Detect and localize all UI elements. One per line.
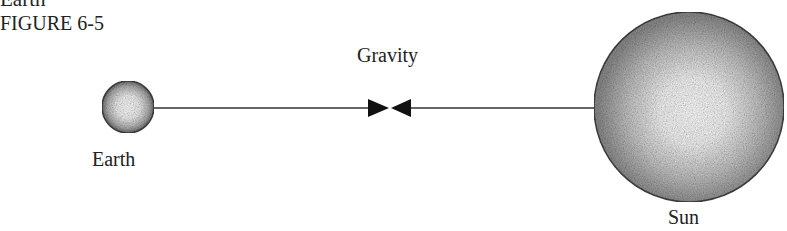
arrowhead-right-icon: [368, 99, 389, 117]
gravity-diagram: [0, 0, 787, 231]
earth-sphere-icon: [102, 81, 154, 133]
sun-sphere-icon: [594, 12, 784, 202]
arrowhead-left-icon: [391, 99, 411, 117]
